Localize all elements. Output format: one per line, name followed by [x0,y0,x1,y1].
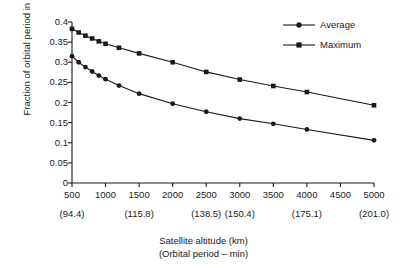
chart-plot-area [0,0,407,268]
data-point-maximum [70,27,75,32]
legend-marker-average [296,22,301,27]
legend-marker-maximum [296,42,301,47]
data-point-maximum [170,60,175,65]
data-point-average [90,69,95,74]
data-point-average [83,65,88,70]
data-point-average [204,109,209,114]
data-point-maximum [271,84,276,89]
data-point-average [96,73,101,78]
data-point-average [117,83,122,88]
data-point-average [76,60,81,65]
data-point-average [137,91,142,96]
data-point-average [70,54,75,59]
data-point-maximum [204,70,209,75]
data-point-maximum [237,77,242,82]
data-point-average [237,116,242,121]
data-point-maximum [90,36,95,41]
data-point-maximum [137,51,142,56]
data-point-average [271,121,276,126]
series-line-average [72,56,374,140]
data-point-average [103,77,108,82]
series-line-maximum [72,29,374,105]
chart-figure: Fraction of orbital period in shadow 00.… [0,0,407,268]
data-point-maximum [76,30,81,35]
data-point-average [372,138,377,143]
data-point-maximum [305,90,310,95]
data-point-maximum [83,33,88,38]
data-point-maximum [117,45,122,50]
data-point-maximum [372,103,377,108]
data-point-average [170,101,175,106]
data-point-average [304,127,309,132]
data-point-maximum [103,41,108,46]
data-point-maximum [97,39,102,44]
